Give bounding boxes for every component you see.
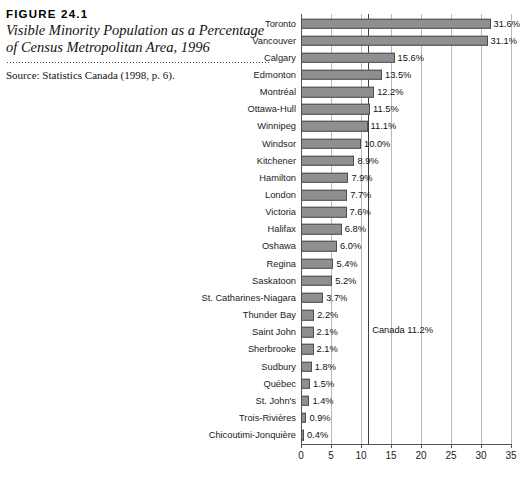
x-tick-label: 10 xyxy=(355,450,366,461)
category-label: Vancouver xyxy=(252,36,296,46)
category-label: Regina xyxy=(267,259,296,269)
bar-row: Edmonton13.5% xyxy=(0,66,528,83)
value-label: 13.5% xyxy=(382,70,411,80)
bar-row: Calgary15.6% xyxy=(0,49,528,66)
value-label: 7.6% xyxy=(347,207,371,217)
bar-row: Vancouver31.1% xyxy=(0,32,528,49)
bar-row: Windsor10.0% xyxy=(0,135,528,152)
value-label: 2.1% xyxy=(314,344,338,354)
x-tick xyxy=(301,444,302,448)
category-label: Kitchener xyxy=(257,156,296,166)
value-label: 3.7% xyxy=(323,293,347,303)
bar xyxy=(301,378,310,389)
bar xyxy=(301,327,314,338)
bar xyxy=(301,156,354,167)
value-label: 0.4% xyxy=(304,430,328,440)
bar-row: Trois-Rivières0.9% xyxy=(0,409,528,426)
category-label: Sherbrooke xyxy=(248,344,296,354)
bar-row: Oshawa6.0% xyxy=(0,238,528,255)
bar-row: Saint John2.1% xyxy=(0,324,528,341)
bar xyxy=(301,258,333,269)
bar-row: Saskatoon5.2% xyxy=(0,272,528,289)
value-label: 11.5% xyxy=(370,104,399,114)
category-label: St. Catharines-Niagara xyxy=(201,293,296,303)
x-tick-label: 5 xyxy=(328,450,334,461)
bar-row: Regina5.4% xyxy=(0,255,528,272)
bar-row: Kitchener8.9% xyxy=(0,152,528,169)
bar-row: Chicoutimi-Jonquière0.4% xyxy=(0,427,528,444)
category-label: Edmonton xyxy=(254,70,296,80)
x-tick-label: 20 xyxy=(415,450,426,461)
value-label: 2.1% xyxy=(314,327,338,337)
bar xyxy=(301,138,361,149)
value-label: 6.0% xyxy=(337,241,361,251)
value-label: 31.1% xyxy=(488,36,517,46)
x-tick xyxy=(511,444,512,448)
value-label: 12.2% xyxy=(374,87,403,97)
value-label: 11.1% xyxy=(368,121,397,131)
bar xyxy=(301,276,332,287)
x-tick-label: 30 xyxy=(475,450,486,461)
x-tick xyxy=(421,444,422,448)
category-label: Saskatoon xyxy=(252,276,296,286)
category-label: Thunder Bay xyxy=(243,310,296,320)
value-label: 10.0% xyxy=(361,139,390,149)
bar xyxy=(301,207,347,218)
value-label: 6.8% xyxy=(342,224,366,234)
value-label: 8.9% xyxy=(354,156,378,166)
bar-row: Sherbrooke2.1% xyxy=(0,341,528,358)
bar xyxy=(301,104,370,115)
bar xyxy=(301,35,488,46)
bar xyxy=(301,293,323,304)
value-label: 1.4% xyxy=(309,396,333,406)
bar-row: Montréal12.2% xyxy=(0,84,528,101)
category-label: Hamilton xyxy=(259,173,296,183)
value-label: 1.8% xyxy=(312,362,336,372)
x-tick-label: 15 xyxy=(385,450,396,461)
category-label: Winnipeg xyxy=(257,121,296,131)
category-label: Victoria xyxy=(265,207,296,217)
category-label: Windsor xyxy=(262,139,296,149)
value-label: 5.4% xyxy=(333,259,357,269)
bar-row: St. Catharines-Niagara3.7% xyxy=(0,289,528,306)
value-label: 1.5% xyxy=(310,379,334,389)
bar-chart: Canada 11.2% Toronto31.6%Vancouver31.1%C… xyxy=(0,0,528,486)
bar-row: Victoria7.6% xyxy=(0,204,528,221)
x-tick xyxy=(391,444,392,448)
bar-row: Sudbury1.8% xyxy=(0,358,528,375)
bar xyxy=(301,18,491,29)
x-tick-label: 35 xyxy=(505,450,516,461)
x-tick-label: 0 xyxy=(298,450,304,461)
bar xyxy=(301,87,374,98)
bar xyxy=(301,224,342,235)
category-label: Halifax xyxy=(268,224,296,234)
category-label: Montréal xyxy=(260,87,296,97)
category-label: London xyxy=(265,190,296,200)
bar xyxy=(301,310,314,321)
bar-row: Québec1.5% xyxy=(0,375,528,392)
category-label: Toronto xyxy=(265,19,296,29)
value-label: 7.9% xyxy=(348,173,372,183)
bar-row: London7.7% xyxy=(0,187,528,204)
bar-row: Winnipeg11.1% xyxy=(0,118,528,135)
category-label: Trois-Rivières xyxy=(239,413,296,423)
category-label: Oshawa xyxy=(262,241,296,251)
bar-row: Toronto31.6% xyxy=(0,15,528,32)
category-label: Sudbury xyxy=(261,362,296,372)
bar-row: St. John's1.4% xyxy=(0,392,528,409)
bar xyxy=(301,396,309,407)
x-tick xyxy=(331,444,332,448)
x-tick-label: 25 xyxy=(445,450,456,461)
bar-row: Thunder Bay2.2% xyxy=(0,307,528,324)
category-label: Calgary xyxy=(264,53,296,63)
value-label: 7.7% xyxy=(347,190,371,200)
category-label: Saint John xyxy=(252,327,296,337)
category-label: Ottawa-Hull xyxy=(247,104,296,114)
category-label: Québec xyxy=(263,379,296,389)
x-tick xyxy=(451,444,452,448)
bar-row: Halifax6.8% xyxy=(0,221,528,238)
x-tick xyxy=(481,444,482,448)
bar xyxy=(301,344,314,355)
value-label: 0.9% xyxy=(306,413,330,423)
x-tick xyxy=(361,444,362,448)
